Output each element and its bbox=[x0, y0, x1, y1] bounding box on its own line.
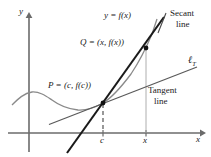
secant-line-label-line1: Secant bbox=[170, 9, 194, 18]
tick-label-c: c bbox=[100, 136, 104, 145]
point-marker-q bbox=[144, 46, 149, 51]
tangent-line-symbol: ℓT bbox=[188, 55, 196, 68]
secant-tangent-figure: y x c x y = f(x) Secant line Q = (x, f(x… bbox=[0, 0, 211, 157]
tangent-line-label-line1: Tangent bbox=[148, 86, 177, 95]
function-label: y = f(x) bbox=[104, 11, 131, 20]
tangent-symbol-subscript: T bbox=[192, 60, 196, 67]
x-axis-arrowhead bbox=[200, 130, 206, 137]
y-axis bbox=[26, 12, 33, 152]
point-marker-p bbox=[101, 101, 106, 106]
y-axis-label: y bbox=[19, 7, 23, 16]
tangent-line-label-line2: line bbox=[154, 97, 168, 106]
function-curve bbox=[12, 19, 157, 110]
tick-label-x: x bbox=[143, 136, 147, 145]
point-label-q: Q = (x, f(x)) bbox=[80, 38, 124, 47]
point-label-p: P = (c, f(c)) bbox=[48, 81, 91, 90]
y-axis-arrowhead bbox=[26, 12, 33, 18]
x-axis bbox=[8, 130, 206, 137]
secant-line-label-line2: line bbox=[176, 20, 190, 29]
x-axis-label: x bbox=[196, 135, 200, 144]
